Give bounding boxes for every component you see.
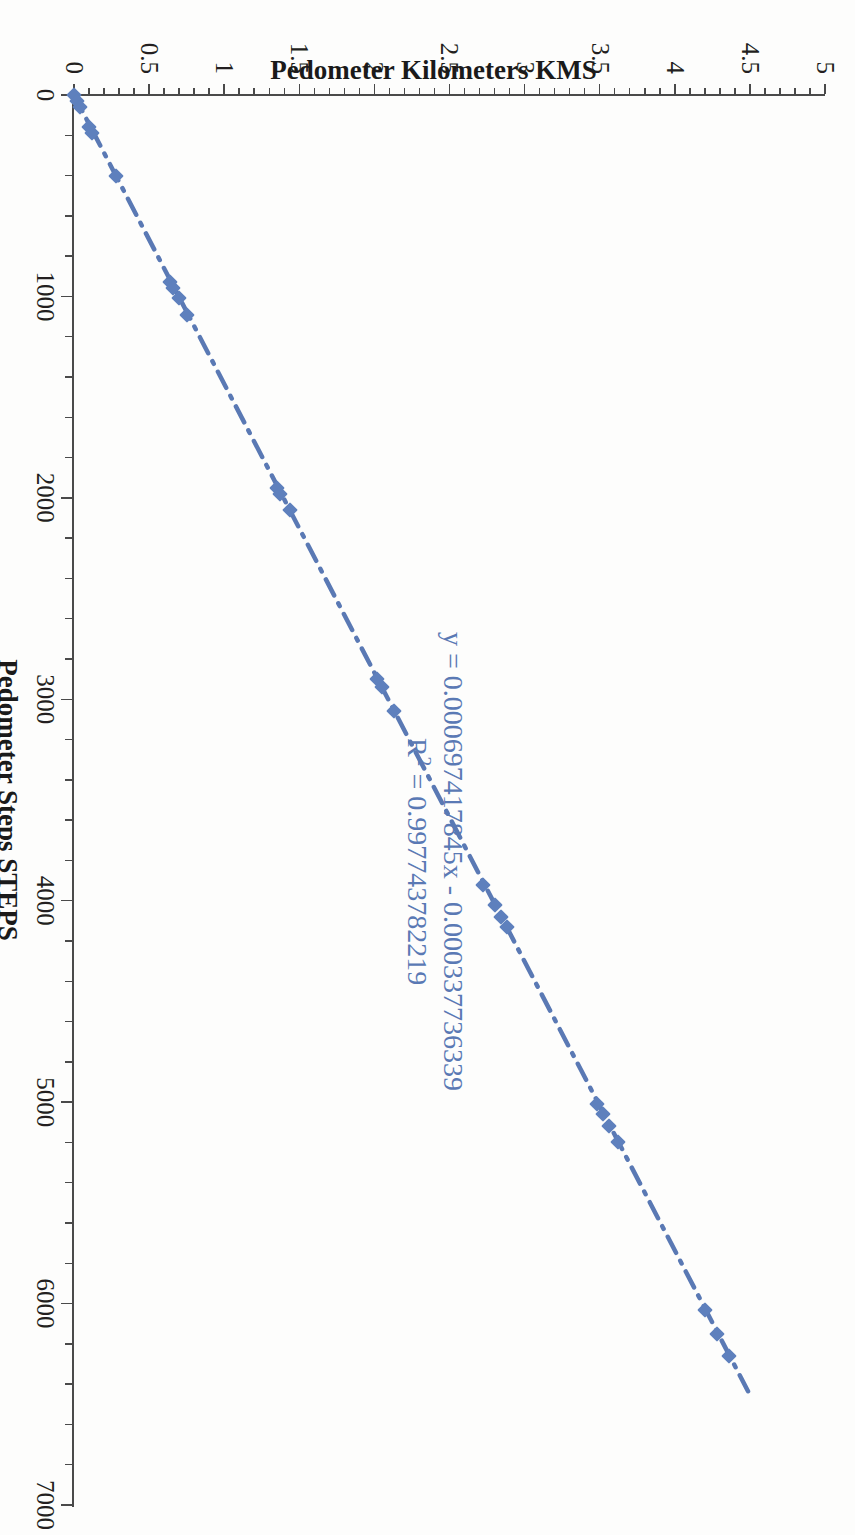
y-axis-minor-tick (359, 88, 361, 94)
x-axis-major-tick (61, 900, 72, 902)
y-axis-minor-tick (794, 88, 796, 94)
y-axis-minor-tick (704, 88, 706, 94)
y-axis-major-tick (674, 84, 676, 94)
x-axis-minor-tick (65, 658, 72, 660)
x-axis-minor-tick (65, 417, 72, 419)
y-axis-major-tick (599, 84, 601, 94)
y-axis-minor-tick (404, 88, 406, 94)
r-squared-number: = 0.997743782219 (402, 766, 433, 985)
y-axis-minor-tick (554, 88, 556, 94)
y-axis-minor-tick (764, 88, 766, 94)
x-axis-tick-label: 1000 (31, 271, 59, 321)
y-axis-major-tick (223, 84, 225, 94)
x-axis-minor-tick (65, 940, 72, 942)
data-point-marker (721, 1348, 737, 1364)
r-squared-value: R2 = 0.997743782219 (399, 632, 435, 1091)
y-axis-minor-tick (88, 88, 90, 94)
x-axis-minor-tick (65, 336, 72, 338)
data-point-marker (610, 1135, 626, 1151)
data-point-marker (283, 502, 299, 518)
y-axis-major-tick (299, 84, 301, 94)
y-axis-title: Pedometer Kilometers KMS (64, 55, 804, 86)
x-axis-minor-tick (65, 376, 72, 378)
x-axis-tick-label: 7000 (31, 1480, 59, 1530)
x-axis-minor-tick (65, 860, 72, 862)
x-axis-title: Pedometer Steps STEPS (0, 659, 23, 941)
x-axis-minor-tick (65, 255, 72, 257)
x-axis-major-tick (61, 1504, 72, 1506)
data-point-marker (475, 877, 491, 893)
x-axis-minor-tick (65, 981, 72, 983)
x-axis-minor-tick (65, 1061, 72, 1063)
y-axis-minor-tick (509, 88, 511, 94)
x-axis-minor-tick (65, 1021, 72, 1023)
x-axis-major-tick (61, 699, 72, 701)
x-axis-minor-tick (65, 537, 72, 539)
y-axis-minor-tick (434, 88, 436, 94)
y-axis-minor-tick (118, 88, 120, 94)
data-point-marker (179, 307, 195, 323)
x-axis-minor-tick (65, 779, 72, 781)
y-axis-minor-tick (193, 88, 195, 94)
x-axis-major-tick (61, 1303, 72, 1305)
x-axis-tick-label: 2000 (31, 473, 59, 523)
x-axis-minor-tick (65, 1142, 72, 1144)
y-axis-minor-tick (494, 88, 496, 94)
y-axis-minor-tick (284, 88, 286, 94)
x-axis-minor-tick (65, 739, 72, 741)
x-axis-line (72, 95, 74, 1507)
regression-equation: y = 0.000697417845x - 0.000337736339 (436, 632, 470, 1091)
r-squared-exponent: 2 (414, 757, 435, 767)
y-axis-major-tick (749, 84, 751, 94)
y-axis-minor-tick (314, 88, 316, 94)
y-axis-major-tick (524, 84, 526, 94)
x-axis-tick-label: 0 (31, 89, 59, 102)
x-axis-minor-tick (65, 175, 72, 177)
x-axis-major-tick (61, 1101, 72, 1103)
x-axis-minor-tick (65, 1182, 72, 1184)
x-axis-major-tick (61, 497, 72, 499)
y-axis-minor-tick (178, 88, 180, 94)
x-axis-minor-tick (65, 1263, 72, 1265)
y-axis-minor-tick (584, 88, 586, 94)
x-axis-tick-label: 4000 (31, 876, 59, 926)
y-axis-minor-tick (389, 88, 391, 94)
y-axis-minor-tick (689, 88, 691, 94)
y-axis-minor-tick (809, 88, 811, 94)
x-axis-minor-tick (65, 819, 72, 821)
y-axis-tick-label: 5 (811, 62, 839, 75)
y-axis-minor-tick (254, 88, 256, 94)
x-axis-minor-tick (65, 135, 72, 137)
y-axis-major-tick (148, 84, 150, 94)
y-axis-minor-tick (719, 88, 721, 94)
y-axis-major-tick (449, 84, 451, 94)
x-axis-minor-tick (65, 1383, 72, 1385)
y-axis-major-tick (374, 84, 376, 94)
x-axis-minor-tick (65, 578, 72, 580)
x-axis-minor-tick (65, 1343, 72, 1345)
x-axis-minor-tick (65, 618, 72, 620)
x-axis-minor-tick (65, 215, 72, 217)
scatter-chart: 01000200030004000500060007000 00.511.522… (0, 0, 855, 1535)
x-axis-major-tick (61, 296, 72, 298)
r-squared-prefix: R (402, 738, 433, 757)
y-axis-minor-tick (779, 88, 781, 94)
y-axis-major-tick (824, 84, 826, 94)
data-point-marker (709, 1326, 725, 1342)
y-axis-minor-tick (614, 88, 616, 94)
y-axis-minor-tick (734, 88, 736, 94)
x-axis-minor-tick (65, 1424, 72, 1426)
data-point-marker (108, 168, 124, 184)
y-axis-minor-tick (344, 88, 346, 94)
y-axis-line (72, 94, 825, 96)
x-axis-tick-label: 6000 (31, 1279, 59, 1329)
x-axis-minor-tick (65, 1464, 72, 1466)
trendline-equation-label: y = 0.000697417845x - 0.000337736339 R2 … (399, 632, 470, 1091)
x-axis-tick-label: 5000 (31, 1077, 59, 1127)
x-axis-minor-tick (65, 1222, 72, 1224)
y-axis-minor-tick (569, 88, 571, 94)
y-axis-minor-tick (269, 88, 271, 94)
y-axis-minor-tick (659, 88, 661, 94)
y-axis-minor-tick (539, 88, 541, 94)
y-axis-minor-tick (479, 88, 481, 94)
